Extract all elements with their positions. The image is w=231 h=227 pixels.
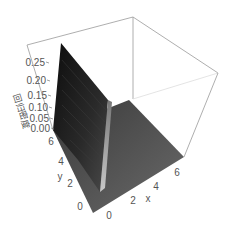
z-axis: 0.25 0.20 0.15 0.10 0.05 0.00 回归密度 (11, 57, 54, 134)
surface-plot: 0.25 0.20 0.15 0.10 0.05 0.00 回归密度 6 4 2… (0, 0, 231, 227)
x-tick-label: 4 (153, 181, 159, 192)
x-tick-label: 2 (130, 195, 136, 206)
y-tick-label: 6 (48, 136, 54, 147)
z-tick-label: 0.15 (28, 90, 48, 101)
z-tick-label: 0.10 (29, 102, 49, 113)
z-tick-label: 0.00 (31, 123, 51, 134)
x-tick-label: 0 (106, 210, 112, 221)
y-tick-label: 4 (58, 156, 64, 167)
x-tick-label: 6 (174, 167, 180, 178)
z-tick-label: 0.20 (27, 75, 47, 86)
y-tick-label: 2 (67, 178, 73, 189)
y-axis-label: y (58, 171, 63, 182)
x-axis-label: x (146, 193, 151, 204)
bounding-box-back (27, 17, 218, 99)
y-tick-label: 0 (77, 201, 83, 212)
z-tick-label: 0.25 (26, 57, 46, 68)
